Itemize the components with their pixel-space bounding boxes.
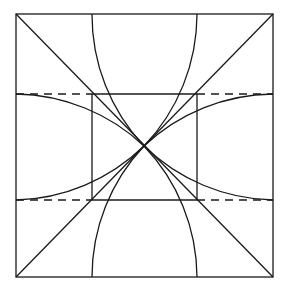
arc-right-top: [144, 94, 273, 146]
arc-left-top: [16, 94, 144, 146]
arc-top-right: [144, 14, 197, 146]
arc-bottom-right: [144, 146, 197, 277]
arc-bottom-left: [92, 146, 144, 277]
arc-top-left: [92, 14, 144, 146]
geometry-diagram: [0, 0, 290, 289]
arc-right-bottom: [144, 146, 273, 200]
arc-left-bottom: [16, 146, 144, 200]
